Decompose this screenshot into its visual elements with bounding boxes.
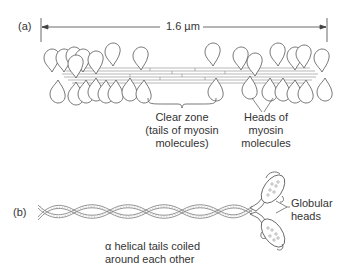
heads-line3: molecules: [236, 137, 296, 150]
globular-line1: Globular: [291, 197, 333, 210]
thick-filament: [62, 68, 318, 83]
panel-b-label: (b): [13, 206, 26, 219]
clear-zone-line2: (tails of myosin: [124, 124, 240, 137]
clear-zone-line1: Clear zone: [124, 111, 240, 124]
clear-zone-line3: molecules): [124, 137, 240, 150]
myosin-figure: (a) 1.6 µm Clear zone (tails of myosin m…: [0, 0, 345, 271]
heads-line1: Heads of: [236, 111, 296, 124]
scale-bar-label: 1.6 µm: [166, 20, 200, 33]
globular-pointer-lines: [276, 201, 290, 213]
panel-a-label: (a): [18, 20, 31, 33]
globular-line2: heads: [291, 210, 333, 223]
tails-line1: α helical tails coiled: [105, 240, 200, 253]
myosin-heads-bottom: [50, 76, 332, 105]
coiled-tails: [38, 205, 253, 220]
clear-zone-label: Clear zone (tails of myosin molecules): [124, 111, 240, 150]
heads-line2: myosin: [236, 124, 296, 137]
myosin-heads-top: [44, 43, 329, 78]
clear-zone-brace: [148, 98, 216, 108]
globular-heads-label: Globular heads: [291, 197, 333, 223]
tails-line2: around each other: [105, 253, 200, 266]
coiled-tails-label: α helical tails coiled around each other: [105, 240, 200, 266]
myosin-heads-label: Heads of myosin molecules: [236, 111, 296, 150]
globular-heads: [250, 171, 290, 252]
